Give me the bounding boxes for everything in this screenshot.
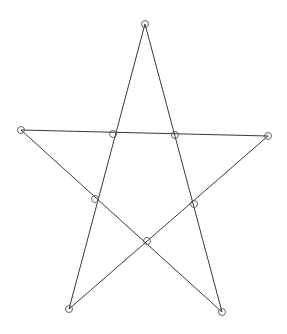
- star-edges: [21, 24, 268, 312]
- star-edge-right-to-bottom-left: [69, 136, 268, 309]
- star-edge-top-to-bottom-left: [69, 24, 145, 309]
- star-edge-top-to-bottom-right: [145, 24, 222, 312]
- pentagram-diagram: [0, 0, 287, 334]
- star-edge-left-to-right: [21, 130, 268, 136]
- star-edge-left-to-bottom-right: [21, 130, 222, 312]
- star-vertices: [18, 21, 272, 316]
